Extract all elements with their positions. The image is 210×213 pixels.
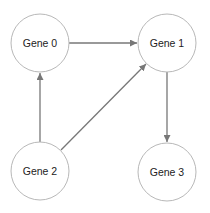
node-gene-2[interactable]: Gene 2 — [11, 142, 69, 200]
gene-network-diagram: Gene 0 Gene 1 Gene 2 Gene 3 — [0, 0, 210, 213]
node-label: Gene 1 — [150, 37, 185, 49]
node-label: Gene 0 — [23, 37, 58, 49]
edge-gene2-to-gene1 — [61, 64, 146, 150]
node-gene-3[interactable]: Gene 3 — [138, 143, 196, 201]
node-label: Gene 3 — [150, 166, 185, 178]
node-gene-0[interactable]: Gene 0 — [11, 14, 69, 72]
node-label: Gene 2 — [23, 165, 58, 177]
node-gene-1[interactable]: Gene 1 — [138, 14, 196, 72]
